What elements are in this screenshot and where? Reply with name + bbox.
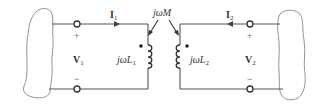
right-plus-sign: + (247, 31, 252, 41)
inductor-l2-label: jωL2 (188, 54, 209, 67)
right-top-terminal (247, 21, 253, 27)
mutual-inductance-label: jωM (151, 7, 172, 18)
right-inductor-coil-icon (176, 45, 180, 68)
voltage-v1-label: V1 (73, 54, 84, 67)
left-plus-sign: + (74, 31, 79, 41)
right-polarity-dot-icon (185, 44, 189, 48)
left-minus-sign: − (74, 74, 79, 84)
right-network-blob (278, 10, 306, 100)
inductor-l1-label: jωL1 (115, 54, 136, 67)
left-inductor-coil-icon (148, 45, 152, 68)
left-network-blob (23, 8, 53, 98)
left-polarity-dot-icon (139, 44, 143, 48)
mutual-arrow-right (169, 20, 177, 33)
current-i1-label: I1 (110, 9, 118, 22)
right-bottom-terminal (247, 86, 253, 92)
voltage-v2-label: V2 (245, 54, 256, 67)
current-i2-label: I2 (226, 9, 234, 22)
mutual-arrowhead-left-icon (148, 30, 153, 36)
left-bottom-terminal (74, 86, 80, 92)
mutual-arrow-left (150, 20, 158, 33)
left-top-terminal (74, 21, 80, 27)
mutual-arrowhead-right-icon (174, 30, 179, 36)
right-minus-sign: − (247, 74, 252, 84)
circuit-diagram: jωM I1 I2 V1 V2 + − + − jωL1 jωL2 (0, 0, 322, 109)
